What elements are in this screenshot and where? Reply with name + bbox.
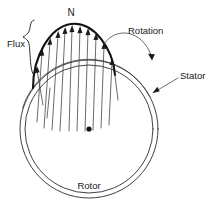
flux-arrow (60, 27, 67, 131)
flux-arrow (44, 38, 52, 128)
flux-label: Flux (7, 38, 25, 49)
motor-flux-diagram: N Flux Rotation Stator Rotor (0, 0, 206, 204)
flux-arrow (77, 26, 82, 131)
rotation-label: Rotation (128, 25, 163, 36)
flux-arrow (101, 42, 106, 128)
flux-arrow (93, 33, 98, 130)
flux-arrow (52, 31, 60, 130)
flux-tail (115, 76, 118, 100)
stator-label: Stator (180, 70, 205, 81)
stator-leader-arrow (152, 78, 178, 93)
flux-arrow (85, 28, 90, 131)
pole-label: N (67, 7, 74, 18)
flux-arrow (69, 25, 74, 131)
rotor-label: Rotor (77, 180, 100, 191)
diagram-canvas: N Flux Rotation Stator Rotor (0, 0, 206, 204)
flux-tail (47, 88, 50, 118)
rotor-center-dot (86, 126, 91, 131)
